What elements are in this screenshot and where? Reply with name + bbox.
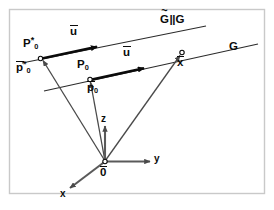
- point-p0-star-marker: [38, 56, 42, 60]
- label-u-lower-glyph: u: [123, 46, 130, 59]
- label-p0-star-base: P: [23, 37, 31, 49]
- label-vector-u-upper: u: [70, 25, 77, 38]
- label-vec-p0-star-base: p: [16, 61, 23, 74]
- label-axis-y: y: [154, 154, 160, 164]
- label-vector-p0-star: p*0: [16, 61, 31, 74]
- label-g-glyph: G: [175, 13, 184, 25]
- label-origin: 0: [100, 166, 106, 179]
- label-vector-u-lower: u: [123, 46, 130, 59]
- figure-root: G||G G u u P*0 p*0 P0 p0 x 0 x y z: [0, 0, 274, 210]
- label-point-p0: P0: [77, 59, 89, 71]
- label-point-p0-star: P*0: [23, 38, 38, 50]
- point-origin-marker: [103, 159, 107, 163]
- label-line-g: G: [229, 41, 238, 53]
- label-line-g-tilde-parallel-g: G||G: [160, 14, 184, 26]
- label-axis-z: z: [101, 114, 106, 124]
- label-g-tilde-glyph: G: [160, 14, 169, 26]
- label-p0-star-sub: 0: [34, 42, 38, 51]
- label-point-x: x: [177, 56, 183, 69]
- figure-frame: [10, 10, 265, 194]
- figure-canvas: [0, 0, 274, 210]
- label-vector-p0: p0: [87, 81, 98, 94]
- label-origin-glyph: 0: [100, 166, 106, 179]
- label-vec-p0-star-sub: 0: [27, 66, 31, 75]
- label-vec-p0-base: p: [87, 81, 94, 94]
- label-p0-sub: 0: [85, 63, 89, 72]
- label-p0-base: P: [77, 58, 85, 70]
- label-vec-p0-sub: 0: [94, 86, 98, 95]
- point-x-marker: [180, 50, 184, 54]
- label-vec-p0-star-sup: *: [23, 59, 27, 69]
- label-u-upper-glyph: u: [70, 25, 77, 38]
- label-axis-x: x: [60, 189, 66, 199]
- label-x-glyph: x: [177, 56, 183, 69]
